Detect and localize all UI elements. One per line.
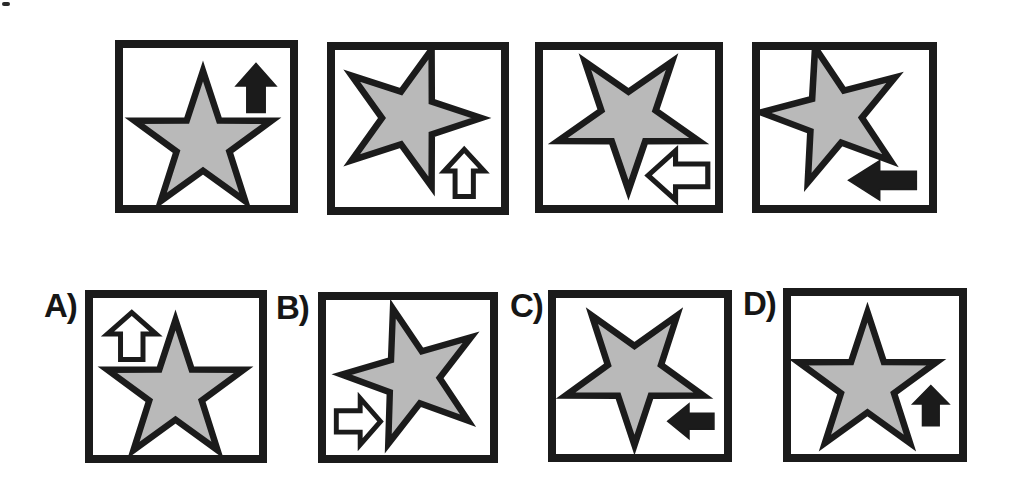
option-panel-b[interactable] [318, 292, 498, 463]
option-label-a: A) [44, 288, 77, 324]
option-panel-d[interactable] [783, 288, 967, 462]
panel-graphic [543, 50, 715, 205]
star-icon [761, 50, 895, 182]
panel-graphic [335, 50, 501, 207]
panel-graphic [326, 300, 490, 455]
sequence-panel-1 [115, 40, 298, 213]
panel-graphic [791, 296, 959, 454]
arrow-up-icon [913, 386, 949, 426]
option-label-d: D) [743, 286, 776, 322]
arrow-up-icon [444, 150, 484, 197]
sequence-panel-3 [535, 42, 723, 213]
option-panel-c[interactable] [548, 290, 732, 462]
panel-graphic [123, 48, 290, 205]
option-label-b: B) [276, 290, 309, 326]
panel-graphic [556, 298, 724, 454]
panel-graphic [760, 50, 929, 205]
arrow-up-icon [236, 64, 276, 113]
arrow-left-icon [648, 151, 708, 200]
arrow-right-icon [336, 398, 380, 444]
option-label-c: C) [510, 288, 543, 324]
sequence-panel-4 [752, 42, 937, 213]
sequence-panel-2 [327, 42, 509, 215]
arrow-left-icon [668, 404, 714, 439]
scan-artifact [2, 2, 10, 6]
star-icon [799, 312, 937, 443]
arrow-left-icon [849, 161, 917, 200]
puzzle-figure: A) B) C) D) [0, 0, 1023, 498]
arrow-up-icon [107, 313, 156, 360]
option-panel-a[interactable] [85, 290, 267, 463]
panel-graphic [93, 298, 259, 455]
